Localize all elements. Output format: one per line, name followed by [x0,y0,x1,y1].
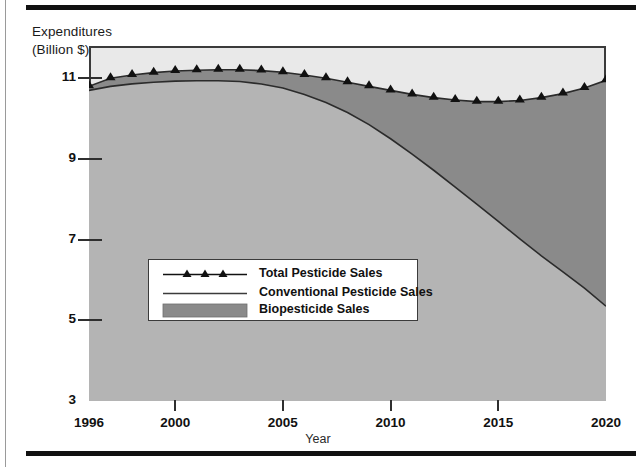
x-axis-title: Year [0,432,636,446]
marker-total [127,69,137,77]
chart-canvas [89,46,606,401]
marker-total [149,67,159,75]
marker-total [235,64,245,72]
figure-page: Expenditures (Billion $) 357911 19962000… [0,0,636,467]
x-tick-label: 2010 [361,415,421,430]
y-tick-label: 9 [36,150,76,165]
x-tick-mark [174,400,176,411]
marker-total [493,96,503,104]
legend-item-biopesticide: Biopesticide Sales [149,301,419,320]
marker-total [450,94,460,102]
marker-total [515,94,525,102]
bottom-rule [26,451,636,456]
x-tick-label: 2000 [145,415,205,430]
page-edge-line [5,0,6,467]
marker-total [299,69,309,77]
legend-label-biopesticide: Biopesticide Sales [259,302,369,316]
marker-total [472,96,482,104]
top-rule [26,5,636,10]
legend-symbol-swatch [161,301,249,320]
marker-total [256,65,266,73]
plot-area [89,46,606,401]
y-tick-mark [78,319,102,321]
chart-legend: Total Pesticide Sales Conventional Pesti… [148,259,418,321]
y-axis-title-line1: Expenditures [32,24,112,39]
marker-total [407,88,417,96]
marker-total [321,72,331,80]
legend-item-total: Total Pesticide Sales [149,265,419,284]
marker-total [536,92,546,100]
y-tick-label: 5 [36,311,76,326]
marker-total [429,92,439,100]
y-tick-mark [78,77,102,79]
legend-label-total: Total Pesticide Sales [259,266,382,280]
y-axis-title-line2: (Billion $) [32,42,89,57]
x-tick-mark [497,400,499,411]
legend-label-conventional: Conventional Pesticide Sales [259,285,433,299]
marker-total [278,66,288,74]
marker-total [364,80,374,88]
marker-total [170,65,180,73]
marker-total [213,64,223,72]
legend-symbol-line-markers [161,265,249,284]
marker-total [558,88,568,96]
y-tick-label: 7 [36,231,76,246]
x-tick-mark [282,400,284,411]
marker-total [386,84,396,92]
marker-total [106,72,116,80]
marker-total [343,76,353,84]
x-tick-label: 2015 [468,415,528,430]
y-tick-label: 11 [36,69,76,84]
marker-total [192,64,202,72]
x-tick-label: 1996 [59,415,119,430]
x-tick-label: 2005 [253,415,313,430]
x-tick-mark [390,400,392,411]
marker-total [601,74,606,82]
y-tick-mark [78,158,102,160]
x-tick-label: 2020 [576,415,636,430]
y-tick-mark [78,239,102,241]
y-tick-label: 3 [36,392,76,407]
